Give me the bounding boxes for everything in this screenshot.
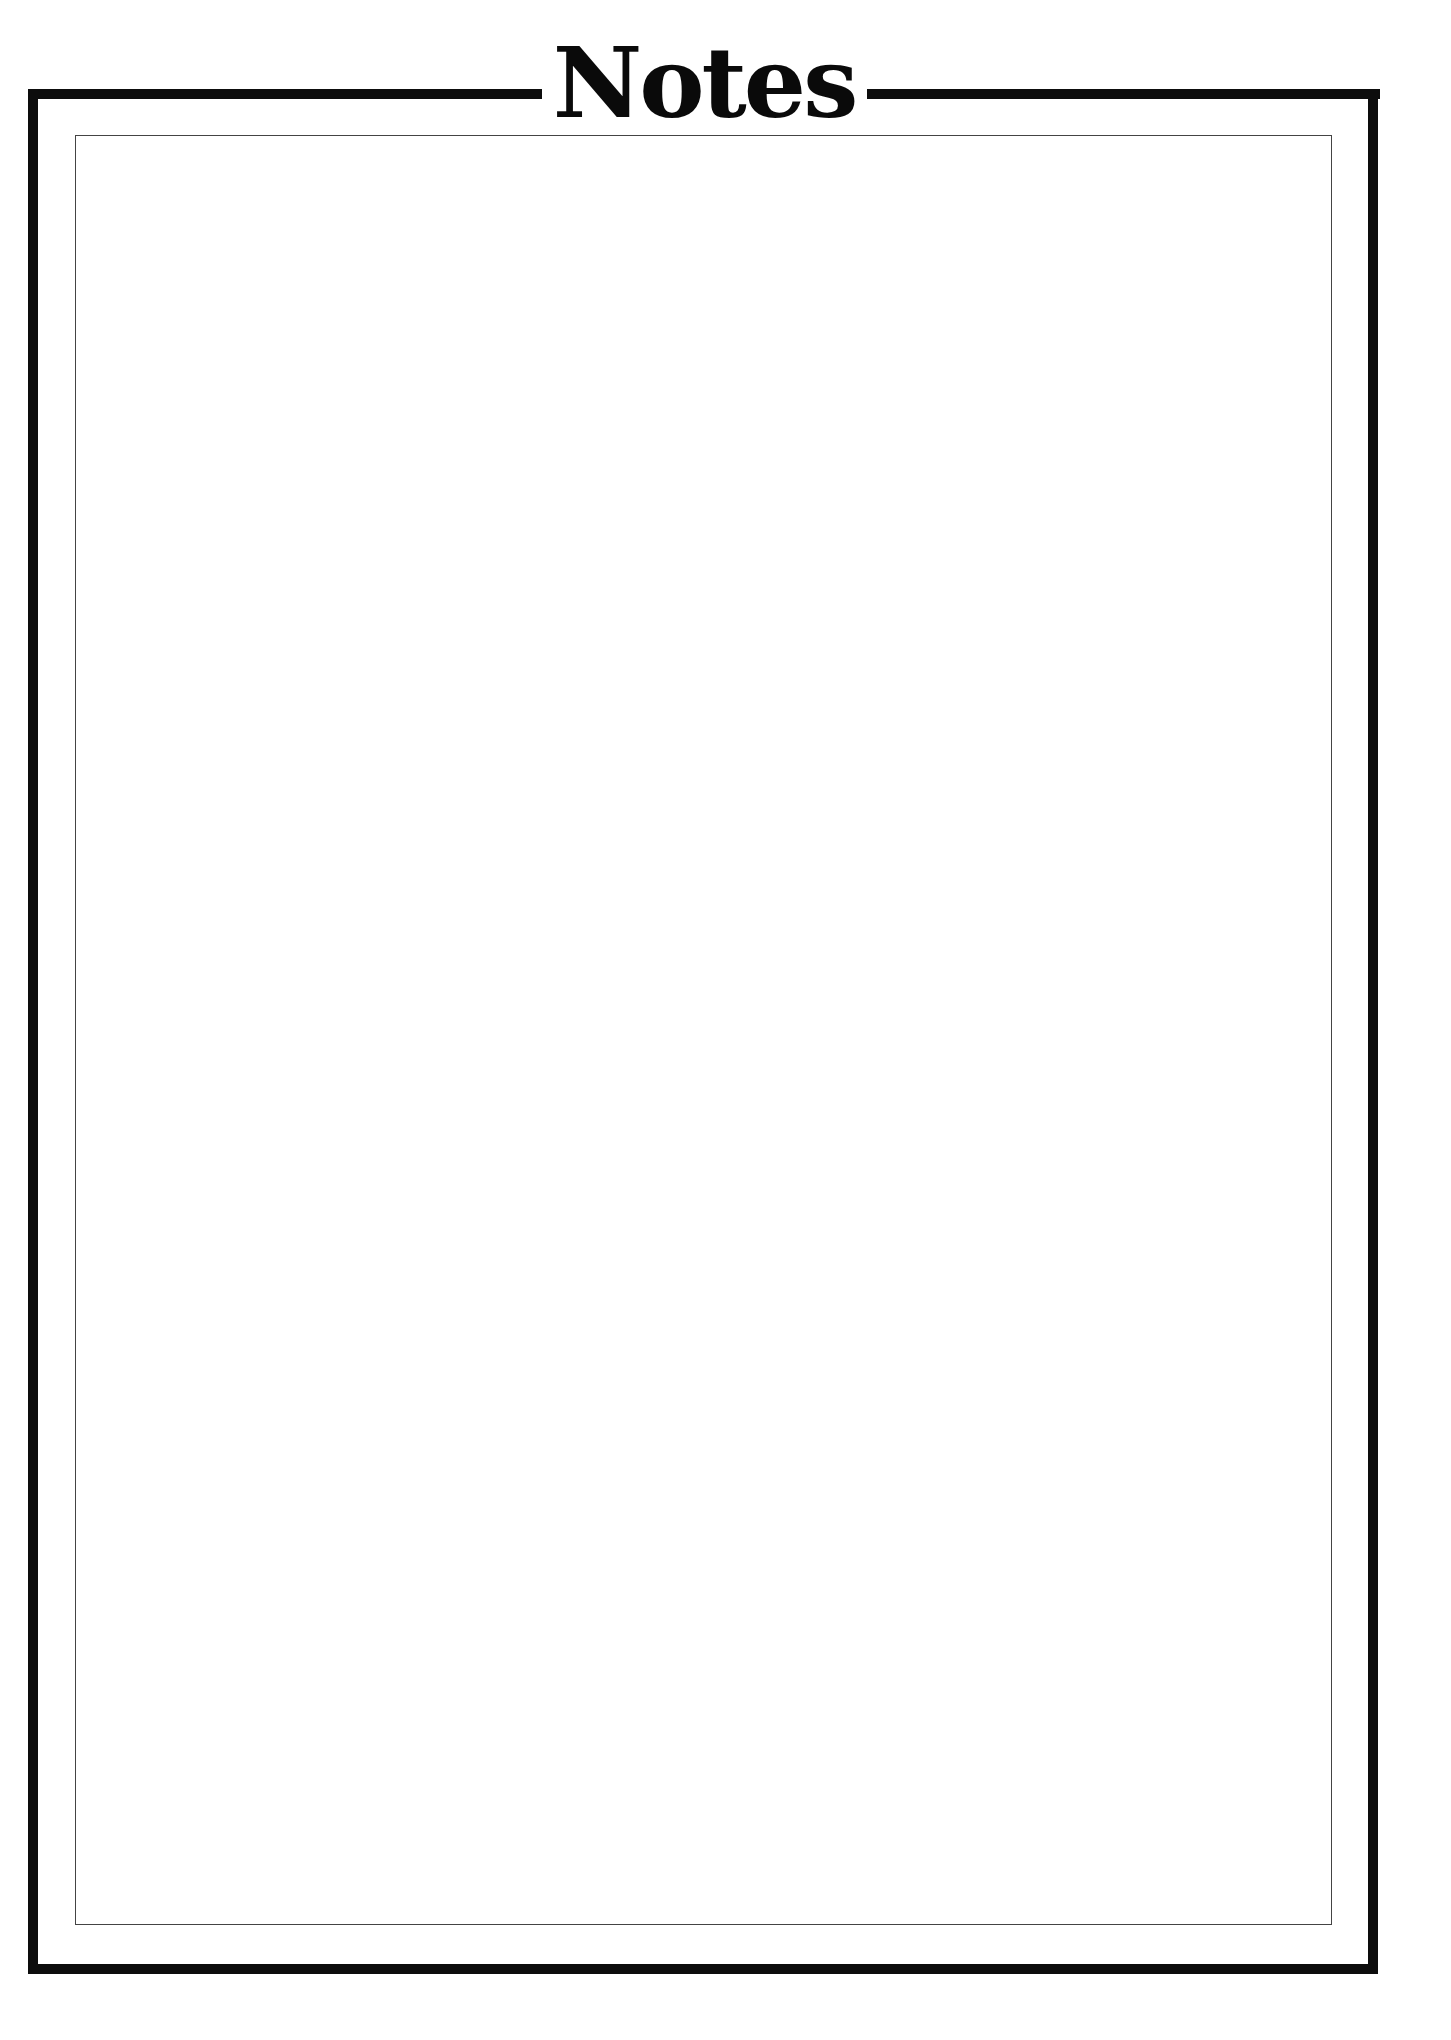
outer-frame-right bbox=[1368, 89, 1378, 1974]
notes-page: Notes bbox=[0, 0, 1451, 2040]
notes-writing-area bbox=[75, 135, 1332, 1925]
outer-frame-top-left bbox=[28, 89, 542, 99]
outer-frame-top-right bbox=[867, 89, 1380, 99]
page-title: Notes bbox=[541, 28, 867, 138]
outer-frame-bottom bbox=[28, 1964, 1378, 1974]
outer-frame-left bbox=[28, 89, 38, 1974]
